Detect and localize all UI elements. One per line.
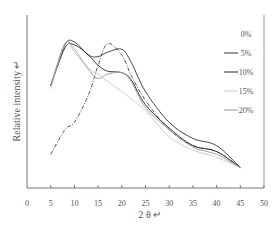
x-tick-label: 30 [165,199,173,208]
legend-label: 5% [241,49,252,58]
series-line-5pct [51,40,241,168]
x-tick-label: 35 [189,199,197,208]
legend: 0%5%10%15%20% [224,30,254,115]
xrd-line-chart: 05101520253035404550 0%5%10%15%20% 2 θ ↵… [0,0,277,226]
legend-label: 10% [239,68,254,77]
series-line-10pct [51,43,241,167]
x-tick-label: 5 [49,199,53,208]
x-axis-label: 2 θ ↵ [139,209,162,220]
legend-label: 0% [241,30,252,39]
x-tick-label: 50 [260,199,268,208]
x-tick-label: 10 [70,199,78,208]
y-axis-label: Relative intensity ↵ [11,61,22,142]
legend-label: 15% [239,87,254,96]
x-tick-labels: 05101520253035404550 [25,199,268,208]
series-lines [51,40,241,168]
x-tick-label: 20 [118,199,126,208]
x-tick-label: 40 [213,199,221,208]
legend-label: 20% [239,106,254,115]
x-tick-label: 25 [142,199,150,208]
x-tick-label: 15 [94,199,102,208]
x-tick-label: 0 [25,199,29,208]
x-tick-label: 45 [236,199,244,208]
